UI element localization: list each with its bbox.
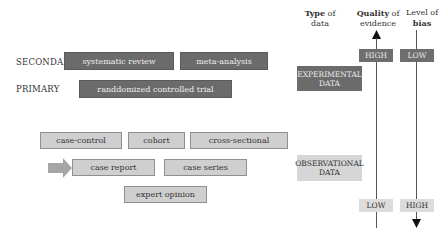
header-quality-of-evidence: Quality of evidence [355,8,401,29]
observational-line1: OBSERVATIONAL [295,159,364,168]
observational-data-label: OBSERVATIONAL DATA [297,155,362,181]
header-type-bold: Type [305,8,325,18]
box-systematic-review: systematic review [64,52,174,70]
bias-low-tag: LOW [400,49,434,62]
header-type-line2: data [311,19,329,28]
level-label-primary: PRIMARY [16,84,59,94]
box-meta-analysis: meta-analysis [180,52,268,70]
box-case-series: case series [164,159,247,176]
header-type-rest: of [325,9,335,18]
box-expert-opinion: expert opinion [124,186,207,203]
box-case-control: case-control [40,132,122,149]
experimental-line1: EXPERIMENTAL [297,70,362,79]
header-quality-bold: Quality [357,8,389,18]
experimental-line2: DATA [319,79,340,88]
box-randomized-controlled-trial: randdomized controlled trial [79,80,232,98]
arrow-down-icon [412,219,421,229]
experimental-data-label: EXPERIMENTAL DATA [297,66,362,91]
header-quality-rest: of [389,9,399,18]
box-cross-sectional: cross-sectional [190,132,288,149]
observational-line2: DATA [319,168,340,177]
quality-high-tag: HIGH [359,49,393,62]
box-cohort: cohort [128,132,185,149]
header-bias-bold: bias [413,18,431,28]
box-case-report: case report [72,159,155,176]
header-type-of-data: Type of data [298,8,342,29]
arrow-right-icon [48,158,74,178]
header-quality-line2: evidence [360,19,396,28]
quality-low-tag: LOW [359,199,393,212]
header-bias-line1: Level of [406,8,438,17]
bias-high-tag: HIGH [400,199,434,212]
header-level-of-bias: Level of bias [402,8,442,29]
